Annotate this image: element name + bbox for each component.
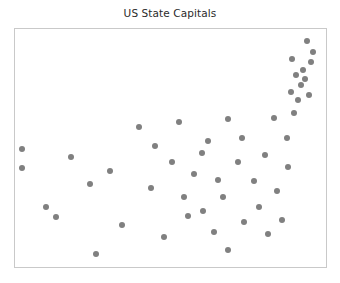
data-point [274, 188, 280, 194]
data-point [119, 222, 125, 228]
chart-title: US State Capitals [0, 7, 340, 20]
data-point [161, 234, 167, 240]
data-point [211, 229, 217, 235]
data-point [241, 219, 247, 225]
data-point [310, 49, 316, 55]
data-point [235, 159, 241, 165]
data-point [220, 194, 226, 200]
data-point [93, 251, 99, 257]
plot-area [14, 28, 327, 268]
data-point [148, 185, 154, 191]
data-point [262, 152, 268, 158]
data-point [199, 150, 205, 156]
data-point [169, 159, 175, 165]
data-point [43, 204, 49, 210]
data-point [265, 231, 271, 237]
data-point [271, 115, 277, 121]
data-point [291, 110, 297, 116]
data-point [295, 97, 301, 103]
data-point [225, 116, 231, 122]
data-point [205, 138, 211, 144]
data-point [185, 213, 191, 219]
data-points-layer [15, 29, 326, 267]
data-point [68, 154, 74, 160]
data-point [288, 89, 294, 95]
scatter-plot-figure: US State Capitals [0, 0, 340, 283]
data-point [215, 177, 221, 183]
data-point [176, 119, 182, 125]
data-point [293, 72, 299, 78]
data-point [87, 181, 93, 187]
data-point [107, 168, 113, 174]
data-point [19, 146, 25, 152]
data-point [200, 208, 206, 214]
data-point [239, 135, 245, 141]
data-point [285, 164, 291, 170]
data-point [279, 217, 285, 223]
data-point [256, 204, 262, 210]
data-point [19, 165, 25, 171]
data-point [191, 171, 197, 177]
data-point [53, 214, 59, 220]
data-point [289, 56, 295, 62]
data-point [298, 82, 304, 88]
data-point [306, 92, 312, 98]
data-point [304, 38, 310, 44]
data-point [225, 247, 231, 253]
data-point [302, 76, 308, 82]
data-point [181, 194, 187, 200]
data-point [308, 59, 314, 65]
data-point [136, 124, 142, 130]
data-point [284, 135, 290, 141]
data-point [152, 143, 158, 149]
data-point [300, 67, 306, 73]
data-point [251, 178, 257, 184]
